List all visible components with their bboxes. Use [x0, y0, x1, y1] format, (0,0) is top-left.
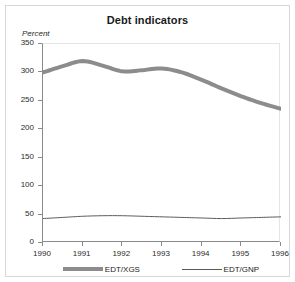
legend-label-edt-xgs: EDT/XGS — [105, 265, 140, 274]
y-axis-tick-label: 50 — [2, 210, 34, 218]
legend-item-edt-xgs: EDT/XGS — [63, 265, 140, 274]
x-axis-tick-label: 1992 — [101, 249, 141, 258]
x-axis-tick-label: 1994 — [181, 249, 221, 258]
y-axis-tick-label: 300 — [2, 67, 34, 75]
legend-item-edt-gnp: EDT/GNP — [182, 265, 260, 274]
series-canvas — [43, 44, 281, 243]
legend-swatch-icon-edt-xgs — [63, 267, 103, 271]
chart-legend: EDT/XGS EDT/GNP — [42, 262, 280, 276]
y-axis-tick-label: 150 — [2, 153, 34, 161]
legend-swatch-icon-edt-gnp — [182, 269, 222, 270]
series-line-edt-gnp — [43, 216, 281, 219]
x-axis-tick-label: 1991 — [62, 249, 102, 258]
y-axis-tick-label: 200 — [2, 124, 34, 132]
x-axis-tick-label: 1993 — [141, 249, 181, 258]
y-axis-tick-label: 350 — [2, 39, 34, 47]
y-axis-tick-label: 0 — [2, 238, 34, 246]
x-axis-tick-label: 1995 — [220, 249, 260, 258]
chart-title: Debt indicators — [0, 14, 295, 26]
y-axis-tick-label: 250 — [2, 96, 34, 104]
series-line-edt-xgs — [43, 61, 281, 109]
y-axis-label: Percent — [22, 29, 50, 38]
y-axis-tick-label: 100 — [2, 181, 34, 189]
x-axis-tick-label: 1990 — [22, 249, 62, 258]
legend-label-edt-gnp: EDT/GNP — [224, 265, 260, 274]
plot-area — [42, 43, 280, 242]
x-axis-tick-label: 1996 — [260, 249, 295, 258]
chart-page: Debt indicators Percent 0501001502002503… — [0, 0, 295, 282]
